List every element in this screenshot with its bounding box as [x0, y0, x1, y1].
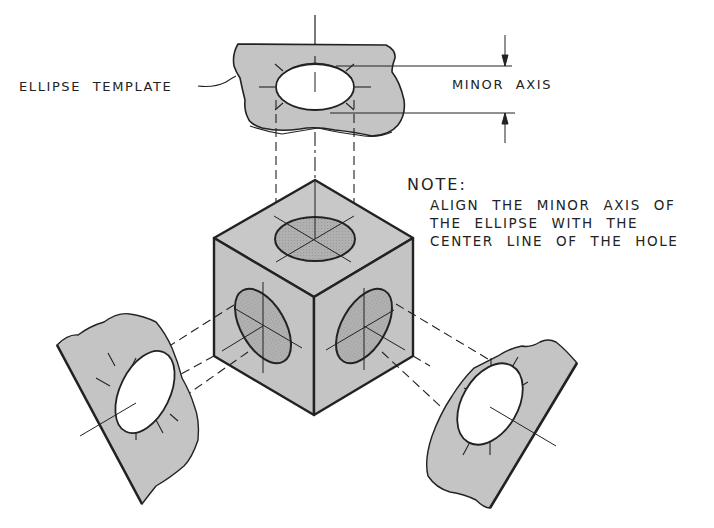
minor-axis-label: MINOR AXIS [452, 77, 552, 92]
isometric-cube [214, 180, 413, 415]
note-title: NOTE: [407, 175, 467, 194]
note-line-2: THE ELLIPSE WITH THE [430, 215, 638, 231]
right-template [427, 340, 577, 508]
note-line-3: CENTER LINE OF THE HOLE [430, 233, 678, 249]
ellipse-template-label: ELLIPSE TEMPLATE [19, 79, 172, 94]
note-line-1: ALIGN THE MINOR AXIS OF [430, 197, 675, 213]
top-template [234, 15, 405, 136]
left-template [57, 314, 199, 504]
ellipse-template-leader [198, 76, 236, 87]
